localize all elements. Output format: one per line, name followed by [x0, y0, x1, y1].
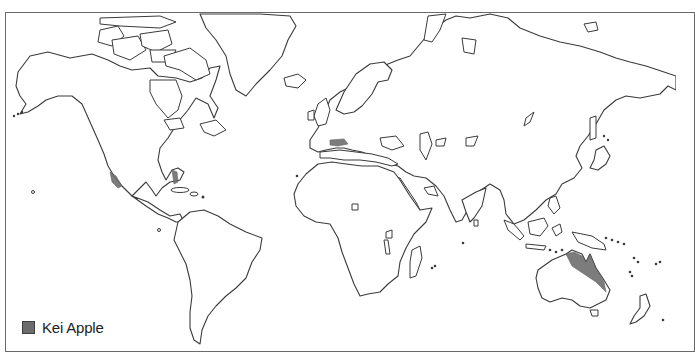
arctic-island	[100, 16, 176, 28]
new-guinea	[572, 232, 606, 250]
java	[526, 244, 546, 250]
ireland	[308, 110, 314, 120]
sulawesi	[552, 224, 562, 236]
arctic-island	[584, 22, 598, 32]
madagascar	[410, 246, 422, 278]
lake-chad	[352, 204, 358, 210]
central-america	[132, 196, 184, 222]
legend-label: Kei Apple	[42, 319, 104, 336]
new-zealand	[630, 294, 650, 324]
japan	[590, 146, 610, 170]
tasmania	[590, 310, 598, 316]
borneo	[528, 218, 548, 236]
philippines	[548, 196, 560, 214]
legend-swatch-icon	[22, 321, 35, 334]
lake-victoria	[386, 230, 392, 238]
south-america	[174, 210, 262, 344]
cuba	[171, 188, 189, 193]
iceland	[284, 74, 306, 88]
hispaniola	[190, 192, 198, 196]
newfoundland	[200, 120, 226, 136]
sri-lanka	[474, 220, 478, 226]
sakhalin	[590, 116, 596, 140]
arctic-island	[462, 38, 476, 54]
legend: Kei Apple	[22, 319, 104, 336]
